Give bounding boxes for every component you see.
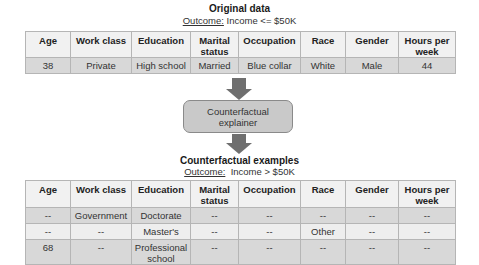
down-arrow-icon xyxy=(226,134,252,154)
outcome-value: Income > $50K xyxy=(225,166,294,177)
header-marital-status: Marital status xyxy=(191,32,239,58)
header-race: Race xyxy=(301,181,346,208)
cell-age: -- xyxy=(26,224,71,240)
table-row: 68 -- Professional school -- -- -- -- -- xyxy=(26,240,456,265)
counterfactual-table: Age Work class Education Marital status … xyxy=(25,180,456,265)
outcome-label: Outcome: xyxy=(183,15,224,26)
cell-marital-status: -- xyxy=(191,208,239,224)
cell-race: White xyxy=(301,58,346,74)
cell-occupation: -- xyxy=(239,208,301,224)
cell-age: -- xyxy=(26,208,71,224)
header-age: Age xyxy=(26,32,71,58)
header-marital-status: Marital status xyxy=(191,181,239,208)
original-outcome: Outcome: Income <= $50K xyxy=(0,15,479,26)
cell-marital-status: Married xyxy=(191,58,239,74)
cell-work-class: -- xyxy=(71,224,132,240)
cell-education: High school xyxy=(132,58,191,74)
cell-marital-status: -- xyxy=(191,240,239,265)
original-data-title: Original data xyxy=(0,3,479,14)
cell-race: Other xyxy=(301,224,346,240)
cell-work-class: Private xyxy=(71,58,132,74)
table-row: 38 Private High school Married Blue coll… xyxy=(26,58,456,74)
header-work-class: Work class xyxy=(71,181,132,208)
cell-hours-per-week: 44 xyxy=(399,58,456,74)
header-hours-per-week: Hours per week xyxy=(399,181,456,208)
cell-occupation: -- xyxy=(239,240,301,265)
cell-occupation: -- xyxy=(239,224,301,240)
cell-gender: -- xyxy=(346,208,399,224)
cell-hours-per-week: -- xyxy=(399,240,456,265)
cell-race: -- xyxy=(301,240,346,265)
explainer-label: Counterfactual explainer xyxy=(198,106,278,128)
cell-gender: -- xyxy=(346,240,399,265)
header-education: Education xyxy=(132,32,191,58)
table-row: -- Government Doctorate -- -- -- -- -- xyxy=(26,208,456,224)
counterfactual-outcome: Outcome: Income > $50K xyxy=(0,166,479,177)
cell-gender: Male xyxy=(346,58,399,74)
cell-marital-status: -- xyxy=(191,224,239,240)
outcome-label: Outcome: xyxy=(184,166,225,177)
cell-race: -- xyxy=(301,208,346,224)
cell-education: Doctorate xyxy=(132,208,191,224)
header-gender: Gender xyxy=(346,181,399,208)
header-education: Education xyxy=(132,181,191,208)
header-occupation: Occupation xyxy=(239,32,301,58)
original-data-table: Age Work class Education Marital status … xyxy=(25,31,456,74)
header-occupation: Occupation xyxy=(239,181,301,208)
table-row: -- -- Master's -- -- Other -- -- xyxy=(26,224,456,240)
cell-education: Professional school xyxy=(132,240,191,265)
cell-hours-per-week: -- xyxy=(399,208,456,224)
header-row: Age Work class Education Marital status … xyxy=(26,181,456,208)
header-gender: Gender xyxy=(346,32,399,58)
cell-gender: -- xyxy=(346,224,399,240)
outcome-value: Income <= $50K xyxy=(224,15,296,26)
cell-occupation: Blue collar xyxy=(239,58,301,74)
header-work-class: Work class xyxy=(71,32,132,58)
cell-work-class: Government xyxy=(71,208,132,224)
header-race: Race xyxy=(301,32,346,58)
header-hours-per-week: Hours per week xyxy=(399,32,456,58)
cell-age: 38 xyxy=(26,58,71,74)
counterfactual-explainer-box: Counterfactual explainer xyxy=(183,100,293,133)
down-arrow-icon xyxy=(226,78,252,100)
cell-work-class: -- xyxy=(71,240,132,265)
cell-education: Master's xyxy=(132,224,191,240)
counterfactual-title: Counterfactual examples xyxy=(0,155,479,166)
header-age: Age xyxy=(26,181,71,208)
cell-age: 68 xyxy=(26,240,71,265)
header-row: Age Work class Education Marital status … xyxy=(26,32,456,58)
cell-hours-per-week: -- xyxy=(399,224,456,240)
